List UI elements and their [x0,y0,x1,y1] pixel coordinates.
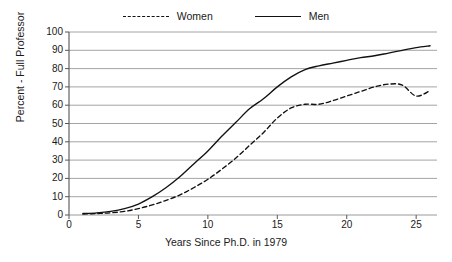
x-axis-title: Years Since Ph.D. in 1979 [0,236,452,248]
chart-figure: Women Men 0102030405060708090100 0510152… [0,0,452,262]
plot-svg [69,32,437,215]
y-tick-label-60: 60 [0,100,63,110]
y-tick-label-20: 20 [0,173,63,183]
legend-label-women: Women [177,10,213,22]
y-tick-label-80: 80 [0,64,63,74]
legend-swatch-women-dashed-line [123,16,169,17]
data-series-layer [83,46,430,214]
y-tick-label-40: 40 [0,137,63,147]
y-tick-label-0: 0 [0,210,63,220]
x-tick-label-5: 5 [136,219,142,231]
x-tick-label-0: 0 [66,219,72,231]
x-tick-label-20: 20 [341,219,352,231]
x-tick-label-10: 10 [202,219,213,231]
x-tick-label-15: 15 [272,219,283,231]
plot-area [69,32,437,215]
legend-label-men: Men [309,10,329,22]
y-tick-label-90: 90 [0,45,63,55]
gridlines [69,32,437,215]
legend-item-men: Men [255,10,329,22]
series-line-men [83,46,430,214]
x-tick-label-25: 25 [411,219,422,231]
y-tick-label-70: 70 [0,82,63,92]
y-tick-label-30: 30 [0,155,63,165]
y-tick-label-50: 50 [0,119,63,129]
y-tick-label-10: 10 [0,192,63,202]
y-axis-title: Percent - Full Professor [14,0,26,147]
legend-swatch-men-solid-line [255,16,301,17]
chart-legend: Women Men [0,8,452,24]
axis-ticks [65,32,416,219]
y-axis-tick-labels: 0102030405060708090100 [0,32,63,215]
y-tick-label-100: 100 [0,27,63,37]
x-axis-tick-labels: 0510152025 [69,219,437,233]
legend-item-women: Women [123,10,213,22]
